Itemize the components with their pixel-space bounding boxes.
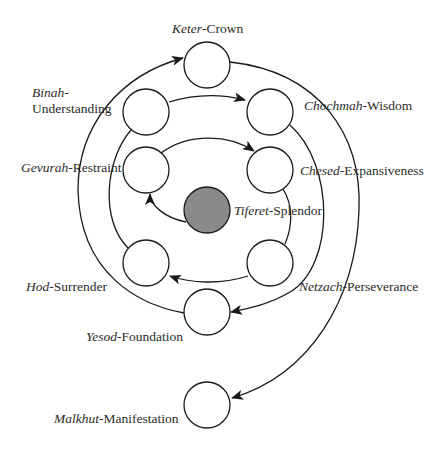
label-chochmah-hebrew: Chochmah: [304, 98, 363, 113]
sefirot-spiral-diagram: Keter-Crown Binah- Understanding Chochma…: [0, 0, 442, 451]
label-hod-hebrew: Hod: [26, 279, 49, 294]
label-chesed-hebrew: Chesed: [300, 163, 340, 178]
label-binah: Binah- Understanding: [32, 85, 111, 117]
diagram-graphic: [0, 0, 442, 451]
label-malkhut: Malkhut-Manifestation: [54, 411, 178, 427]
label-yesod-hebrew: Yesod: [86, 329, 117, 344]
label-hod-english: Surrender: [54, 279, 107, 294]
edge-gevurah-chesed: [161, 138, 254, 153]
node-gevurah: [123, 147, 169, 193]
label-netzach: Netzach-Perseverance: [299, 279, 418, 295]
label-keter: Keter-Crown: [172, 21, 243, 37]
node-keter: [184, 42, 230, 88]
label-gevurah-hebrew: Gevurah: [21, 160, 68, 175]
label-netzach-hebrew: Netzach: [299, 279, 343, 294]
node-chochmah: [247, 89, 293, 135]
label-gevurah: Gevurah-Restraint: [21, 160, 122, 176]
label-tiferet-english: Splendor: [273, 203, 322, 218]
label-malkhut-hebrew: Malkhut: [54, 411, 99, 426]
label-chochmah-english: Wisdom: [367, 98, 412, 113]
label-gevurah-english: Restraint: [73, 160, 122, 175]
label-chesed: Chesed-Expansiveness: [300, 163, 424, 179]
sefirot-nodes: [123, 42, 293, 428]
node-tiferet: [184, 187, 230, 233]
edge-hod-binah: [109, 130, 131, 248]
node-binah: [123, 89, 169, 135]
label-hod: Hod-Surrender: [26, 279, 107, 295]
label-malkhut-english: Manifestation: [104, 411, 179, 426]
label-binah-english: Understanding: [32, 101, 111, 116]
label-yesod-english: Foundation: [122, 329, 184, 344]
label-keter-hebrew: Keter: [172, 21, 202, 36]
label-tiferet: Tiferet-Splendor: [234, 203, 322, 219]
label-yesod: Yesod-Foundation: [86, 329, 183, 345]
node-malkhut: [184, 382, 230, 428]
label-tiferet-hebrew: Tiferet: [234, 203, 269, 218]
node-hod: [123, 240, 169, 286]
node-chesed: [247, 147, 293, 193]
edge-netzach-hod: [170, 276, 248, 282]
node-netzach: [247, 240, 293, 286]
node-yesod: [184, 289, 230, 335]
edge-binah-chochmah: [169, 96, 245, 102]
edge-tiferet-gevurah: [150, 194, 186, 222]
label-chesed-english: Expansiveness: [344, 163, 423, 178]
label-chochmah: Chochmah-Wisdom: [304, 98, 412, 114]
label-keter-english: Crown: [207, 21, 244, 36]
label-binah-hebrew: Binah: [32, 85, 64, 100]
label-netzach-english: Perseverance: [347, 279, 418, 294]
